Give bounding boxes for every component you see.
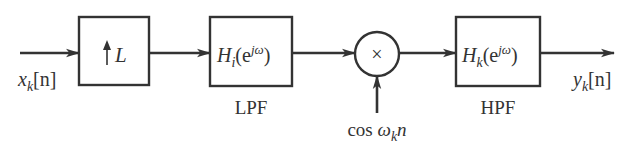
- hpf-transfer-function: Hk(ejω): [461, 42, 518, 70]
- multiply-icon: ×: [371, 43, 382, 65]
- lpf-transfer-function: Hi(ejω): [216, 42, 270, 70]
- upsample-arrowhead-icon: [103, 40, 111, 50]
- upsample-factor: L: [114, 43, 127, 67]
- input-label: xk[n]: [17, 68, 56, 94]
- cos-input-label: cos ωkn: [347, 119, 406, 144]
- lpf-caption: LPF: [235, 97, 268, 118]
- block-diagram: xk[n] L Hi(ejω) LPF × cos ωkn Hk(ejω) HP…: [0, 0, 631, 154]
- output-label: yk[n]: [571, 68, 611, 94]
- upsampler-block: [79, 17, 149, 85]
- hpf-caption: HPF: [481, 97, 516, 118]
